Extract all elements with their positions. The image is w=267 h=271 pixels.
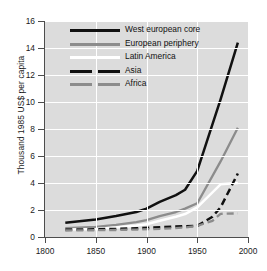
x-tick-label: 1900 (127, 246, 167, 256)
y-tick (38, 210, 44, 211)
x-tick (197, 238, 198, 243)
y-tick-label: 4 (0, 178, 35, 188)
legend-swatch-icon (70, 83, 120, 86)
legend-label: Africa (125, 78, 146, 88)
gridline-vertical (197, 21, 198, 237)
legend-swatch-icon (70, 70, 120, 73)
legend-label: Asia (125, 65, 141, 75)
y-tick (38, 75, 44, 76)
series-line (65, 128, 238, 229)
x-tick (248, 238, 249, 243)
gridline-vertical (96, 21, 97, 237)
y-tick (38, 21, 44, 22)
y-axis-title: Thousand 1985 US$ per capita (16, 10, 26, 220)
y-tick (38, 183, 44, 184)
y-tick-label: 12 (0, 70, 35, 80)
y-tick-label: 6 (0, 151, 35, 161)
legend-swatch-icon (70, 43, 120, 46)
legend-label: West european core (125, 24, 200, 34)
x-tick-label: 1850 (76, 246, 116, 256)
y-tick-label: 14 (0, 43, 35, 53)
x-tick (45, 238, 46, 243)
x-tick-label: 1950 (177, 246, 217, 256)
legend-swatch-icon (70, 29, 120, 32)
chart-figure: Thousand 1985 US$ per capita 02468101214… (0, 0, 267, 271)
y-tick-label: 0 (0, 232, 35, 242)
y-tick (38, 48, 44, 49)
legend-swatch-icon (70, 56, 120, 59)
y-tick-label: 8 (0, 124, 35, 134)
y-tick (38, 237, 44, 238)
x-tick-label: 2000 (228, 246, 267, 256)
y-tick-label: 16 (0, 16, 35, 26)
x-tick-label: 1800 (25, 246, 65, 256)
y-tick (38, 156, 44, 157)
y-tick (38, 102, 44, 103)
x-tick (147, 238, 148, 243)
legend-label: Latin America (125, 51, 176, 61)
y-axis-line (44, 21, 45, 238)
y-tick (38, 129, 44, 130)
legend-label: European periphery (125, 38, 199, 48)
x-tick (96, 238, 97, 243)
y-tick-label: 10 (0, 97, 35, 107)
y-tick-label: 2 (0, 205, 35, 215)
